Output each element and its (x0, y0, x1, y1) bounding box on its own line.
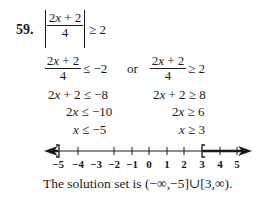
tick-label: −2 (108, 158, 120, 170)
tick-label: −4 (72, 158, 84, 170)
tick-label: −5 (52, 158, 64, 170)
tick-label: 1 (164, 158, 170, 170)
tick-label: 4 (217, 158, 223, 170)
tick-label: 3 (199, 158, 205, 170)
tick-label: −1 (126, 158, 138, 170)
solution-interval: (−∞,−5]∪[3,∞). (145, 176, 232, 191)
tick-label: 2 (181, 158, 187, 170)
solution-statement: The solution set is (−∞,−5]∪[3,∞). (43, 175, 232, 192)
tick-label: −3 (90, 158, 102, 170)
tick-label: 5 (234, 158, 240, 170)
tick-label: 0 (146, 158, 152, 170)
